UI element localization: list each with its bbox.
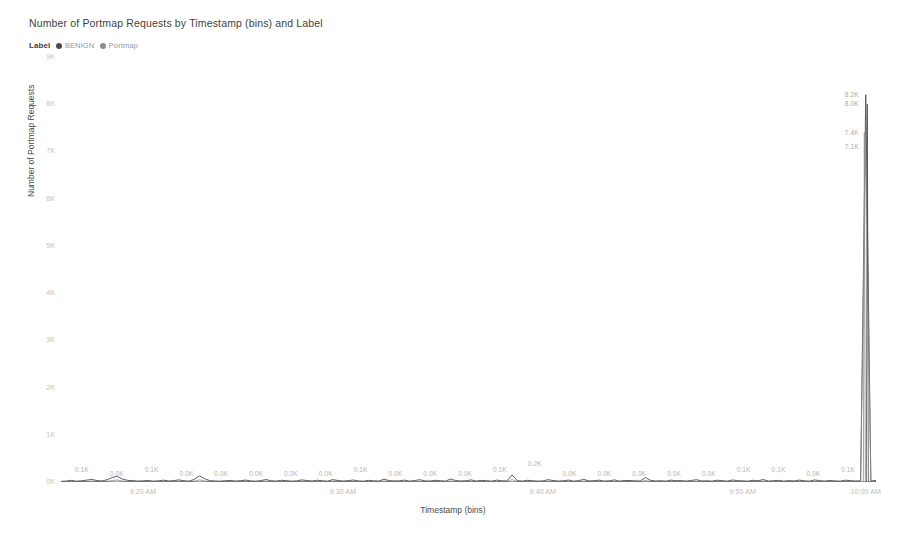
y-tick-label: 7K: [29, 147, 55, 154]
legend-title: Label: [29, 41, 50, 50]
y-tick-label: 9K: [29, 53, 55, 60]
legend-label-portmap: Portmap: [109, 41, 138, 50]
data-label: 0.0K: [214, 470, 228, 477]
data-label: 0.1K: [493, 466, 507, 473]
x-tick-label: 9:50 AM: [713, 488, 773, 495]
y-tick-label: 8K: [29, 100, 55, 107]
data-label: 0.1K: [772, 466, 786, 473]
legend-marker-benign: [56, 43, 62, 49]
y-tick-label: 2K: [29, 384, 55, 391]
chart-legend: Label BENIGN Portmap: [29, 41, 138, 50]
legend-marker-portmap: [100, 43, 106, 49]
legend-item-benign[interactable]: BENIGN: [56, 41, 94, 50]
y-tick-label: 1K: [29, 431, 55, 438]
y-tick-label: 3K: [29, 336, 55, 343]
chart-title: Number of Portmap Requests by Timestamp …: [29, 17, 323, 29]
x-tick-label: 9:20 AM: [113, 488, 173, 495]
data-label: 0.0K: [284, 470, 298, 477]
data-label: 0.1K: [75, 466, 89, 473]
peak-data-label: 8.0K: [845, 100, 859, 107]
plot-svg: [61, 57, 876, 482]
legend-label-benign: BENIGN: [65, 41, 94, 50]
peak-data-label: 8.2K: [845, 91, 859, 98]
series-line-benign: [61, 95, 876, 482]
data-label: 0.0K: [597, 470, 611, 477]
data-label: 0.0K: [249, 470, 263, 477]
peak-data-label: 7.1K: [845, 143, 859, 150]
y-tick-label: 0K: [29, 478, 55, 485]
plot-area: [61, 57, 876, 482]
data-label: 0.0K: [110, 470, 124, 477]
y-tick-label: 4K: [29, 289, 55, 296]
data-label: 0.0K: [423, 470, 437, 477]
data-label: 0.0K: [806, 470, 820, 477]
y-tick-label: 5K: [29, 242, 55, 249]
data-label: 0.0K: [632, 470, 646, 477]
chart-container: Number of Portmap Requests by Timestamp …: [0, 0, 906, 534]
legend-item-portmap[interactable]: Portmap: [100, 41, 138, 50]
y-tick-label: 6K: [29, 195, 55, 202]
data-label: 0.1K: [145, 466, 159, 473]
data-label: 0.0K: [667, 470, 681, 477]
data-label: 0.0K: [563, 470, 577, 477]
data-label: 0.0K: [388, 470, 402, 477]
data-label: 0.0K: [319, 470, 333, 477]
series-line-portmap: [61, 147, 876, 482]
data-label: 0.0K: [458, 470, 472, 477]
data-label: 0.1K: [354, 466, 368, 473]
data-label: 0.1K: [737, 466, 751, 473]
data-label: 0.0K: [179, 470, 193, 477]
x-axis-title: Timestamp (bins): [0, 505, 906, 515]
data-label: 0.1K: [841, 466, 855, 473]
x-tick-label: 9:40 AM: [513, 488, 573, 495]
data-label: 0.0K: [702, 470, 716, 477]
y-axis-title: Number of Portmap Requests: [26, 67, 36, 197]
peak-data-label: 7.4K: [845, 129, 859, 136]
x-tick-label: 9:30 AM: [313, 488, 373, 495]
data-label: 0.2K: [528, 460, 542, 467]
x-tick-label: 10:00 AM: [836, 488, 896, 495]
